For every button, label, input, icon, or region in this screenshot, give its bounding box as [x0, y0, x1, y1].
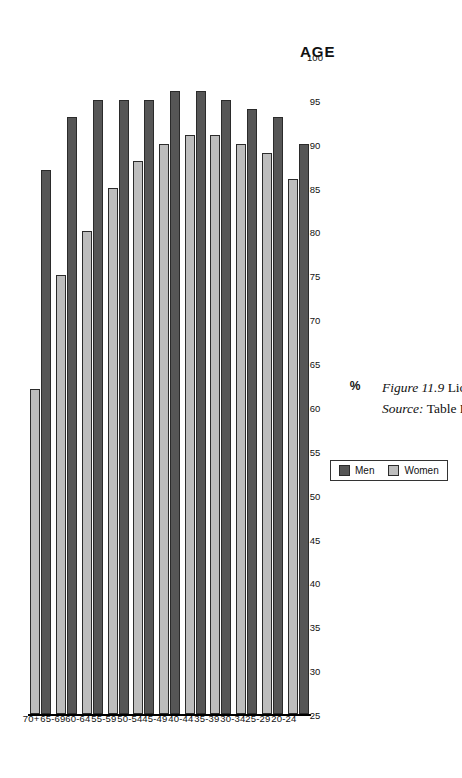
bar-group: 40-44: [182, 56, 208, 714]
category-axis-title: AGE: [300, 43, 336, 60]
value-tick-label: 55: [302, 447, 328, 458]
legend-item: Women: [388, 465, 438, 476]
value-tick-label: 90: [302, 140, 328, 151]
value-tick-label: 40: [302, 578, 328, 589]
bar-group: 25-29: [260, 56, 286, 714]
value-tick-label: 70: [302, 315, 328, 326]
bar-group: 70+: [28, 56, 54, 714]
value-tick-label: 85: [302, 184, 328, 195]
legend-swatch-men: [339, 465, 350, 476]
legend-label: Women: [404, 465, 438, 476]
bar-men: [144, 100, 154, 714]
bar-men: [196, 91, 206, 714]
figure-page: 20-2425-2930-3435-3940-4445-4950-5455-59…: [0, 0, 462, 778]
bar-men: [67, 117, 77, 714]
bar-men: [221, 100, 231, 714]
category-tick-label: 70+: [0, 713, 39, 724]
bar-women: [30, 389, 40, 714]
chart-canvas: 20-2425-2930-3435-3940-4445-4950-5455-59…: [0, 0, 462, 778]
chart-legend: MenWomen: [330, 460, 448, 481]
bar-men: [93, 100, 103, 714]
bar-women: [288, 179, 298, 714]
caption-figure-number: Figure 11.9: [382, 380, 444, 395]
bar-women: [210, 135, 220, 714]
caption-title-text: Licence holding by age and sex, 1988: [448, 380, 462, 395]
caption-title-line: Figure 11.9 Licence holding by age and s…: [382, 378, 462, 399]
bar-group: 55-59: [105, 56, 131, 714]
bar-group: 50-54: [131, 56, 157, 714]
value-axis-ticks: 100959085807570656055504540353025: [311, 56, 351, 716]
caption-source-text: Table DL-20, FHWA, Highway Statistics: [427, 401, 462, 416]
value-tick-label: 45: [302, 535, 328, 546]
bar-group: 45-49: [157, 56, 183, 714]
value-tick-label: 95: [302, 96, 328, 107]
bar-women: [56, 275, 66, 714]
bar-men: [273, 117, 283, 714]
plot-area: 20-2425-2930-3435-3940-4445-4950-5455-59…: [28, 56, 311, 716]
bar-group: 65-69: [54, 56, 80, 714]
value-axis-title-text: %: [350, 379, 361, 393]
value-tick-label: 80: [302, 227, 328, 238]
legend-item: Men: [339, 465, 374, 476]
value-tick-label: 75: [302, 271, 328, 282]
value-tick-label: 35: [302, 622, 328, 633]
bar-women: [133, 161, 143, 714]
bar-group: 35-39: [208, 56, 234, 714]
bar-group: 30-34: [234, 56, 260, 714]
value-tick-label: 60: [302, 403, 328, 414]
bar-women: [236, 144, 246, 714]
value-axis-title: %: [348, 56, 362, 716]
value-tick-label: 30: [302, 666, 328, 677]
bar-men: [119, 100, 129, 714]
value-tick-label: 50: [302, 491, 328, 502]
caption-source-line: Source: Table DL-20, FHWA, Highway Stati…: [382, 399, 462, 420]
figure-caption: Figure 11.9 Licence holding by age and s…: [382, 378, 462, 420]
legend-label: Men: [355, 465, 374, 476]
bar-women: [108, 188, 118, 714]
bar-men: [41, 170, 51, 714]
legend-swatch-women: [388, 465, 399, 476]
bar-women: [159, 144, 169, 714]
bar-men: [170, 91, 180, 714]
bar-women: [262, 153, 272, 714]
value-tick-label: 65: [302, 359, 328, 370]
caption-source-prefix: Source:: [382, 401, 423, 416]
bar-group: 60-64: [79, 56, 105, 714]
bar-women: [82, 231, 92, 714]
bar-group-container: 20-2425-2930-3435-3940-4445-4950-5455-59…: [28, 56, 311, 714]
bar-men: [247, 109, 257, 714]
bar-women: [185, 135, 195, 714]
value-tick-label: 25: [302, 710, 328, 721]
bar-group: 20-24: [285, 56, 311, 714]
